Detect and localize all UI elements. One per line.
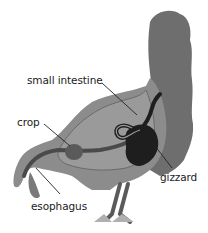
feet [94, 214, 134, 222]
wattle [29, 172, 41, 198]
label-esophagus: esophagus [31, 201, 87, 212]
label-small-intestine: small intestine [27, 75, 103, 86]
crop-organ [65, 144, 83, 160]
leader-esophagus [36, 168, 60, 194]
label-crop: crop [17, 117, 40, 128]
label-gizzard: gizzard [160, 172, 197, 183]
